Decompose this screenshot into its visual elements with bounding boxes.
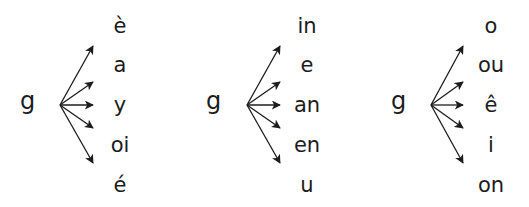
ending-label: on: [466, 172, 516, 198]
arrow-icon: [431, 105, 463, 128]
ending-label: ê: [466, 92, 516, 118]
arrow-icon: [431, 82, 463, 105]
ending-label: ou: [466, 52, 516, 78]
arrow-fan-icon: [0, 0, 529, 207]
ending-label: i: [466, 132, 516, 158]
ending-label: o: [466, 13, 516, 39]
arrow-icon: [431, 105, 463, 163]
arrow-icon: [431, 46, 463, 105]
